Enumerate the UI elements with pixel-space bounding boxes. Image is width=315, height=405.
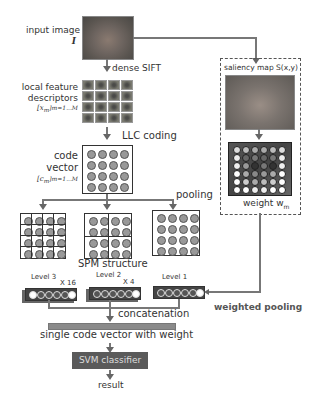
level3-label: Level 3 — [31, 273, 56, 281]
saliency-map-label: saliency map S(x,y) — [224, 63, 298, 72]
level3-vector — [25, 288, 77, 301]
level1-vector — [153, 286, 205, 299]
c-m-label: [cm]m=1...M — [10, 175, 78, 184]
code-vector-grid — [82, 145, 133, 194]
weight-grid — [228, 142, 292, 196]
level2-vector — [89, 287, 141, 300]
level2-label: Level 2 — [96, 271, 121, 279]
llc-coding-label: LLC coding — [122, 131, 177, 141]
descriptors-label: descriptors — [4, 93, 78, 103]
connector-line — [133, 37, 256, 39]
saliency-map-image — [225, 75, 295, 130]
level1-label: Level 1 — [162, 273, 187, 281]
local-feature-label: local feature — [4, 82, 78, 92]
weight-label: weight wm — [243, 198, 289, 210]
vector-label: vector — [20, 163, 78, 173]
spm-level1-grid — [152, 210, 200, 256]
arrow-icon — [103, 134, 111, 140]
spm-structure-label: SPM structure — [78, 259, 148, 269]
svm-classifier-box: SVM classifier — [72, 352, 148, 369]
arrow-icon — [204, 289, 209, 295]
dense-sift-label: dense SIFT — [112, 63, 161, 73]
arrow-icon — [39, 204, 47, 210]
x16-label: X 16 — [60, 279, 76, 287]
arrow-icon — [103, 66, 111, 72]
connector-line — [209, 291, 261, 293]
descriptor-patches — [82, 80, 134, 124]
x4-label: X 4 — [123, 278, 134, 286]
result-label: result — [98, 380, 123, 390]
spm-level3-grid — [20, 213, 66, 259]
concatenation-label: concatenation — [118, 309, 189, 319]
pooling-label: pooling — [176, 190, 213, 200]
code-label: code — [20, 151, 78, 161]
weighted-pooling-label: weighted pooling — [214, 302, 302, 312]
connector-line — [255, 37, 257, 59]
connector-line — [259, 213, 261, 293]
arrow-icon — [103, 204, 111, 210]
arrow-icon — [255, 134, 263, 140]
arrow-icon — [106, 316, 114, 322]
connector-line — [42, 199, 174, 201]
input-image-label: input image — [22, 25, 80, 35]
x-m-label: [xm]m=1...M — [4, 104, 78, 113]
connector-line — [109, 300, 111, 317]
input-image — [82, 16, 134, 60]
spm-level2-grid — [84, 213, 132, 259]
input-symbol: I — [22, 36, 76, 46]
single-code-vector-label: single code vector with weight — [40, 330, 193, 340]
